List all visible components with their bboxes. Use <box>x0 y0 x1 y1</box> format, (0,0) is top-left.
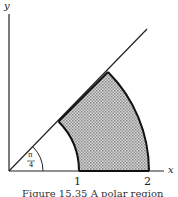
x-axis-label: x <box>168 164 174 175</box>
angle-marker-arc <box>33 147 43 171</box>
tick-label-2: 2 <box>144 175 151 188</box>
polar-region-diagram <box>0 0 178 197</box>
angle-label-numerator: π <box>28 151 33 159</box>
shaded-region <box>59 72 150 171</box>
angle-label-denominator: 4 <box>29 161 33 169</box>
tick-label-1: 1 <box>74 175 81 188</box>
figure-caption: Figure 15.35 A polar region <box>22 188 163 197</box>
y-axis-label: y <box>4 0 10 11</box>
